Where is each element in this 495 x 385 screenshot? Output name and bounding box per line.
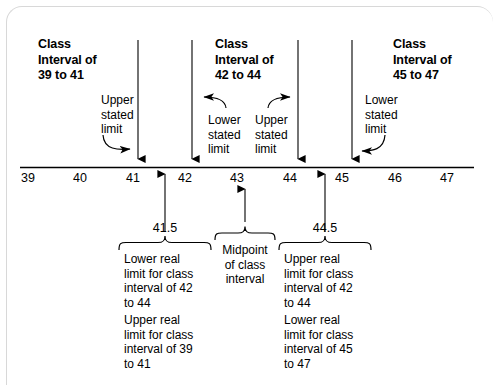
real-limit-primary-41-5: Lower real limit for class interval of 4… <box>124 252 216 310</box>
axis-tick-41: 41 <box>113 171 153 185</box>
axis-tick-42: 42 <box>165 171 205 185</box>
class-interval-header-line2: Interval of <box>215 53 274 69</box>
real-limit-secondary-44-5: Lower real limit for class interval of 4… <box>284 313 376 371</box>
class-interval-header-39-41: Class Interval of 39 to 41 <box>38 37 97 84</box>
stated-limit-line1: Upper <box>101 93 134 108</box>
real-limit-text-line: limit for class <box>124 267 216 282</box>
real-limit-text-line: Upper real <box>284 252 376 267</box>
stated-limit-label-upper-41: Upper stated limit <box>101 93 134 137</box>
stated-limit-label-lower-45: Lower stated limit <box>365 93 398 137</box>
axis-tick-47: 47 <box>427 171 467 185</box>
diagram-stage: Class Interval of 39 to 41 Class Interva… <box>0 0 495 385</box>
real-limit-text-line: interval of 45 <box>284 342 376 357</box>
stated-limit-line2: stated <box>365 108 398 123</box>
class-interval-header-line3: 39 to 41 <box>38 68 97 84</box>
class-interval-header-line2: Interval of <box>38 53 97 69</box>
stated-limit-line2: stated <box>208 128 241 143</box>
real-limit-text-line: Lower real <box>284 313 376 328</box>
class-interval-header-42-44: Class Interval of 42 to 44 <box>215 37 274 84</box>
stated-limit-line1: Lower <box>208 113 241 128</box>
real-limit-text-line: limit for class <box>284 267 376 282</box>
class-interval-header-line1: Class <box>215 37 274 53</box>
stated-limit-line3: limit <box>101 122 134 137</box>
midpoint-text-line: of class <box>207 258 283 273</box>
real-limit-text-line: to 44 <box>124 296 216 311</box>
curved-arrow-upper-stated-limit-41 <box>103 135 130 149</box>
real-limit-value-44-5: 44.5 <box>295 221 355 235</box>
midpoint-text-line: Midpoint <box>207 243 283 258</box>
stated-limit-line3: limit <box>208 142 241 157</box>
real-limit-text-line: limit for class <box>284 328 376 343</box>
brace-43 <box>215 227 275 241</box>
axis-tick-43: 43 <box>217 171 257 185</box>
real-limit-text-line: limit for class <box>124 328 216 343</box>
real-limit-text-line: to 44 <box>284 296 376 311</box>
curved-arrow-upper-stated-limit-44 <box>268 97 290 108</box>
axis-tick-44: 44 <box>270 171 310 185</box>
axis-tick-39: 39 <box>8 171 48 185</box>
real-limit-text-line: interval of 39 <box>124 342 216 357</box>
real-limit-secondary-41-5: Upper real limit for class interval of 3… <box>124 313 216 371</box>
stated-limit-label-lower-42: Lower stated limit <box>208 113 241 157</box>
stated-limit-line3: limit <box>255 142 288 157</box>
curved-arrow-lower-stated-limit-45 <box>362 135 385 151</box>
class-interval-header-line3: 45 to 47 <box>393 68 452 84</box>
stated-limit-label-upper-44: Upper stated limit <box>255 113 288 157</box>
real-limit-text-line: interval of 42 <box>284 281 376 296</box>
stated-limit-line2: stated <box>255 128 288 143</box>
class-interval-header-line2: Interval of <box>393 53 452 69</box>
real-limit-value-41-5: 41.5 <box>135 221 195 235</box>
midpoint-label: Midpoint of class interval <box>207 243 283 287</box>
real-limit-text-line: interval of 42 <box>124 281 216 296</box>
curved-arrow-lower-stated-limit-42 <box>204 97 226 108</box>
brace-44-5 <box>279 236 371 250</box>
class-interval-header-45-47: Class Interval of 45 to 47 <box>393 37 452 84</box>
class-interval-header-line1: Class <box>38 37 97 53</box>
class-interval-header-line3: 42 to 44 <box>215 68 274 84</box>
axis-tick-45: 45 <box>322 171 362 185</box>
axis-tick-40: 40 <box>60 171 100 185</box>
axis-tick-46: 46 <box>375 171 415 185</box>
stated-limit-line2: stated <box>101 108 134 123</box>
midpoint-text-line: interval <box>207 272 283 287</box>
real-limit-text-line: Upper real <box>124 313 216 328</box>
stated-limit-line1: Lower <box>365 93 398 108</box>
real-limit-primary-44-5: Upper real limit for class interval of 4… <box>284 252 376 310</box>
stated-limit-line3: limit <box>365 122 398 137</box>
real-limit-text-line: to 41 <box>124 357 216 372</box>
real-limit-text-line: to 47 <box>284 357 376 372</box>
class-interval-header-line1: Class <box>393 37 452 53</box>
brace-41-5 <box>119 236 211 250</box>
stated-limit-line1: Upper <box>255 113 288 128</box>
real-limit-text-line: Lower real <box>124 252 216 267</box>
